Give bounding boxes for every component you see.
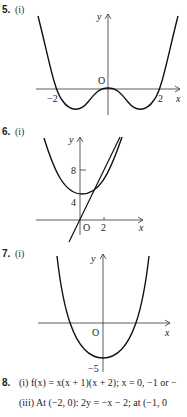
graph-q7-y-label: y: [90, 253, 96, 264]
graph-q7-tick-neg5: −5: [88, 363, 99, 374]
question-number-8: 8.: [2, 377, 10, 388]
answer-line-1: (i) f(x) = x(x + 1)(x + 2); x = 0, −1 or…: [19, 377, 177, 388]
graph-q7-x-label: x: [164, 327, 170, 338]
graph-q7: y O x −5: [0, 0, 187, 417]
graph-q7-origin: O: [92, 327, 99, 338]
answer-line-2: (iii) At (−2, 0): 2y = −x − 2; at (−1, 0: [19, 397, 167, 408]
